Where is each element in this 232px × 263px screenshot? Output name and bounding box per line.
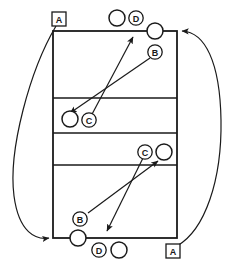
label-c-upper-text: C	[86, 116, 93, 126]
label-c-upper[interactable]: C	[82, 113, 96, 127]
player-top-left[interactable]	[109, 10, 125, 26]
label-c-lower[interactable]: C	[138, 145, 152, 159]
label-a-bottom-right[interactable]: A	[166, 244, 180, 258]
label-a-top-left-text: A	[56, 15, 63, 25]
court-canvas: A D B C C B	[0, 0, 232, 263]
left-return-path-curve	[13, 26, 56, 238]
volleyball-drill-diagram: A D B C C B	[0, 0, 232, 263]
label-b-bottom-text: B	[77, 215, 84, 225]
player-bottom-left[interactable]	[70, 230, 86, 246]
player-top-right[interactable]	[147, 23, 163, 39]
court-outline	[53, 31, 177, 238]
label-d-bottom[interactable]: D	[92, 243, 106, 257]
label-d-top-text: D	[133, 14, 140, 24]
player-mid-left[interactable]	[62, 111, 78, 127]
right-return-path-curve	[177, 31, 221, 246]
label-c-lower-text: C	[142, 148, 149, 158]
label-b-top[interactable]: B	[148, 45, 162, 59]
label-b-top-text: B	[152, 48, 159, 58]
label-b-bottom[interactable]: B	[73, 212, 87, 226]
player-bottom-mid[interactable]	[111, 242, 127, 258]
label-a-bottom-right-text: A	[170, 247, 177, 257]
label-a-top-left[interactable]: A	[52, 12, 66, 26]
label-d-bottom-text: D	[96, 246, 103, 256]
player-mid-right[interactable]	[156, 144, 172, 160]
label-d-top[interactable]: D	[129, 11, 143, 25]
court-group	[53, 31, 177, 238]
